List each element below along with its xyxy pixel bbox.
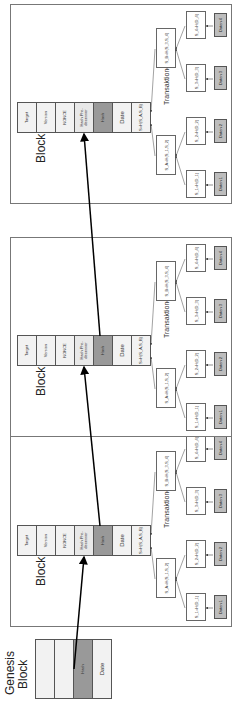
chain-arrows bbox=[0, 0, 240, 701]
blockchain-diagram: Genesis Block Hash Date Block 1TargetVer… bbox=[0, 0, 240, 701]
